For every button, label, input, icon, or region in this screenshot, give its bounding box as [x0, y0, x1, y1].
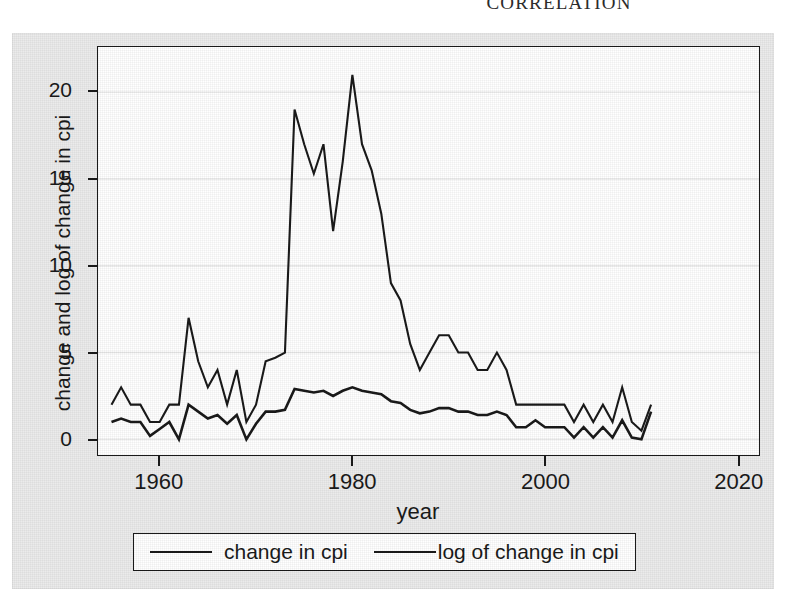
line-chart-canvas [98, 47, 759, 455]
x-tick-label: 1980 [312, 469, 392, 495]
y-tick-mark [88, 265, 97, 267]
x-tick-mark [351, 456, 353, 466]
y-tick-label: 0 [32, 427, 72, 451]
y-tick-mark [88, 439, 97, 441]
series-line-change-in-cpi [111, 75, 651, 431]
legend: change in cpi log of change in cpi [133, 533, 636, 571]
plot-area [97, 46, 760, 456]
x-tick-mark [158, 456, 160, 466]
legend-line-icon [374, 551, 436, 553]
x-tick-mark [544, 456, 546, 466]
y-tick-label: 15 [32, 166, 72, 190]
running-head: CORRELATION [0, 0, 788, 14]
legend-label: change in cpi [224, 540, 348, 564]
x-tick-label: 2000 [505, 469, 585, 495]
x-axis-title: year [12, 499, 774, 525]
y-tick-mark [88, 90, 97, 92]
y-tick-mark [88, 352, 97, 354]
x-tick-label: 2020 [699, 469, 779, 495]
figure-plate: change and log of change in cpi 05101520… [12, 33, 774, 589]
legend-item-change-in-cpi: change in cpi [150, 540, 348, 564]
legend-item-log-of-change-in-cpi: log of change in cpi [374, 540, 619, 564]
scanned-page: CORRELATION change and log of change in … [0, 0, 788, 602]
y-tick-label: 5 [32, 340, 72, 364]
legend-label: log of change in cpi [438, 540, 619, 564]
gridlines [98, 92, 759, 439]
x-tick-label: 1960 [119, 469, 199, 495]
y-tick-mark [88, 178, 97, 180]
x-tick-mark [738, 456, 740, 466]
legend-line-icon [150, 551, 212, 553]
y-tick-label: 10 [32, 253, 72, 277]
y-tick-label: 20 [32, 78, 72, 102]
